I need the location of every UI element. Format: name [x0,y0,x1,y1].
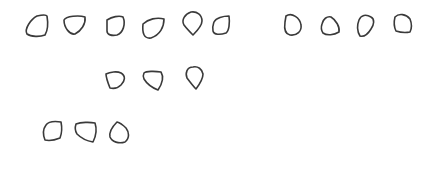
blob-shape [75,122,96,142]
row-1-left-group [26,12,229,38]
blob-shape [143,18,164,38]
blob-shape [107,16,124,35]
blob-shape [285,15,301,35]
blob-shape [64,16,85,34]
blob-shape [106,72,124,88]
blob-shape [213,16,230,34]
row-1-right-group [285,15,412,37]
blob-shape [44,122,62,141]
blob-shape [143,71,162,90]
blob-shape [321,17,339,35]
blob-shape [26,15,47,37]
teardrop-shape [110,122,129,143]
blob-shape [358,15,374,36]
row-3-group [44,122,129,143]
shapes-canvas [0,0,436,194]
blob-shape [394,15,411,33]
teardrop-shape [186,67,203,89]
teardrop-shape [183,12,202,35]
row-2-group [106,67,203,90]
